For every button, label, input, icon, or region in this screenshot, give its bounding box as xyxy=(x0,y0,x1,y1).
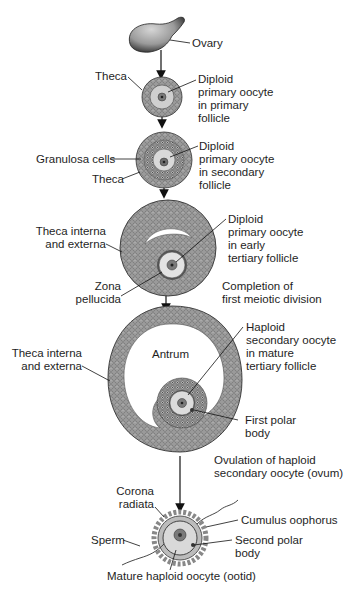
label-completion-first-meiotic-division: Completion of first meiotic division xyxy=(222,280,322,306)
primary-follicle-illustration xyxy=(142,77,182,117)
text-line: Diploid xyxy=(228,213,303,226)
text-line: follicle xyxy=(198,112,273,125)
label-primary-follicle-description: Diploid primary oocyte in primary follic… xyxy=(198,73,273,125)
label-antrum: Antrum xyxy=(152,348,189,361)
text-line: Theca interna xyxy=(10,347,82,360)
early-tertiary-follicle-illustration xyxy=(120,200,216,296)
text-line: Theca interna xyxy=(30,225,106,238)
label-granulosa-cells: Granulosa cells xyxy=(36,153,115,166)
text-line: primary oocyte xyxy=(198,86,273,99)
label-ovulation: Ovulation of haploid secondary oocyte (o… xyxy=(214,454,343,480)
text-line: primary oocyte xyxy=(228,226,303,239)
text-line: tertiary follicle xyxy=(246,360,336,373)
text-line: body xyxy=(235,547,303,560)
label-sperm: Sperm xyxy=(91,534,125,547)
text-line: in early xyxy=(228,239,303,252)
text-line: First polar xyxy=(245,414,296,427)
secondary-follicle-illustration xyxy=(136,132,192,188)
text-line: and externa xyxy=(30,238,106,251)
text-line: in primary xyxy=(198,99,273,112)
label-theca-primary: Theca xyxy=(95,70,127,83)
text-line: primary oocyte xyxy=(199,153,274,166)
text-line: in secondary xyxy=(199,166,274,179)
label-ovary: Ovary xyxy=(192,37,223,50)
text-line: Diploid xyxy=(199,140,274,153)
label-theca-interna-externa-mature: Theca interna and externa xyxy=(10,347,82,373)
ovary-illustration xyxy=(129,17,184,52)
label-first-polar-body: First polar body xyxy=(245,414,296,440)
label-theca-interna-externa-early: Theca interna and externa xyxy=(30,225,106,251)
text-line: pellucida xyxy=(60,293,121,306)
oogenesis-diagram: Ovary Theca Diploid primary oocyte in pr… xyxy=(0,0,346,595)
label-mature-tertiary-description: Haploid secondary oocyte in mature terti… xyxy=(246,321,336,373)
text-line: secondary oocyte (ovum) xyxy=(214,467,343,480)
text-line: in mature xyxy=(246,347,336,360)
label-secondary-follicle-description: Diploid primary oocyte in secondary foll… xyxy=(199,140,274,192)
text-line: Second polar xyxy=(235,534,303,547)
label-corona-radiata: Corona radiata xyxy=(110,485,154,511)
text-line: Diploid xyxy=(198,73,273,86)
label-zona-pellucida: Zona pellucida xyxy=(60,280,121,306)
text-line: first meiotic division xyxy=(222,293,322,306)
label-theca-secondary: Theca xyxy=(92,173,124,186)
label-early-tertiary-description: Diploid primary oocyte in early tertiary… xyxy=(228,213,303,265)
text-line: Haploid xyxy=(246,321,336,334)
text-line: and externa xyxy=(10,360,82,373)
label-second-polar-body: Second polar body xyxy=(235,534,303,560)
label-mature-haploid-oocyte: Mature haploid oocyte (ootid) xyxy=(107,570,256,583)
text-line: radiata xyxy=(110,498,154,511)
text-line: Zona xyxy=(60,280,121,293)
text-line: body xyxy=(245,427,296,440)
text-line: Completion of xyxy=(222,280,322,293)
label-cumulus-oophorus: Cumulus oophorus xyxy=(241,514,338,527)
text-line: follicle xyxy=(199,179,274,192)
text-line: tertiary follicle xyxy=(228,252,303,265)
mature-tertiary-follicle-illustration xyxy=(108,306,242,452)
text-line: secondary oocyte xyxy=(246,334,336,347)
text-line: Corona xyxy=(110,485,154,498)
text-line: Ovulation of haploid xyxy=(214,454,343,467)
